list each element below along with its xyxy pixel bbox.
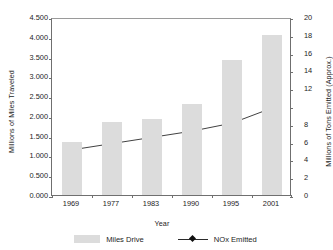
bar-miles-drive xyxy=(262,35,282,195)
y-axis-right-tick xyxy=(290,90,293,91)
chart-legend: Miles Drive NOx Emitted xyxy=(0,232,331,246)
x-axis-category-label: 1969 xyxy=(51,199,91,208)
y-axis-right-tick-label: 16 xyxy=(304,50,312,58)
y-axis-left-tick-label: 0.000 xyxy=(12,192,48,200)
y-axis-left-tick-label: 3.000 xyxy=(12,73,48,81)
y-axis-left-tick-label: 2.500 xyxy=(12,93,48,101)
x-axis-tick-labels: 196919771983199019952001 xyxy=(51,199,291,213)
y-axis-left-tick-label: 2.000 xyxy=(12,113,48,121)
y-axis-left-tick xyxy=(49,19,52,20)
x-axis-category-label: 2001 xyxy=(251,199,291,208)
x-axis-category-label: 1977 xyxy=(91,199,131,208)
y-axis-left-tick-label: 4.500 xyxy=(12,14,48,22)
y-axis-left-tick-label: 1.500 xyxy=(12,133,48,141)
x-axis-tick xyxy=(212,195,213,198)
bar-swatch-icon xyxy=(74,235,100,243)
y-axis-right-tick xyxy=(290,19,293,20)
bar-miles-drive xyxy=(182,104,202,195)
y-axis-right-tick xyxy=(290,55,293,56)
y-axis-left-tick xyxy=(49,157,52,158)
y-axis-left-tick xyxy=(49,39,52,40)
x-axis-category-label: 1990 xyxy=(171,199,211,208)
y-axis-left-tick xyxy=(49,98,52,99)
x-axis-tick xyxy=(132,195,133,198)
legend-label-miles-drive: Miles Drive xyxy=(106,235,144,244)
y-axis-right-tick-label: 2 xyxy=(304,174,308,182)
x-axis-tick xyxy=(291,195,292,198)
y-axis-right-tick xyxy=(290,161,293,162)
y-axis-right-tick xyxy=(290,144,293,145)
y-axis-right-tick-label: 18 xyxy=(304,32,312,40)
x-axis-tick xyxy=(92,195,93,198)
x-axis-tick xyxy=(172,195,173,198)
y-axis-right-tick-label: 6 xyxy=(304,139,308,147)
y-axis-left-tick-label: 0.500 xyxy=(12,172,48,180)
y-axis-left-tick-label: 1.000 xyxy=(12,152,48,160)
x-axis-tick xyxy=(252,195,253,198)
plot-area xyxy=(51,18,291,196)
y-axis-left-tick xyxy=(49,59,52,60)
y-axis-left-tick xyxy=(49,118,52,119)
y-axis-left-tick xyxy=(49,138,52,139)
nox-emitted-line-series xyxy=(52,19,292,197)
bar-miles-drive xyxy=(102,122,122,195)
x-axis-title: Year xyxy=(112,219,212,228)
legend-label-nox-emitted: NOx Emitted xyxy=(214,235,257,244)
x-axis-category-label: 1995 xyxy=(211,199,251,208)
x-axis-tick xyxy=(52,195,53,198)
y-axis-right-tick xyxy=(290,72,293,73)
y-axis-left-tick xyxy=(49,177,52,178)
bar-miles-drive xyxy=(142,119,162,195)
y-axis-right-tick-label: 14 xyxy=(304,67,312,75)
y-axis-left-tick-label: 4.000 xyxy=(12,34,48,42)
y-axis-right-tick xyxy=(290,108,293,109)
bar-miles-drive xyxy=(222,60,242,195)
x-axis-category-label: 1983 xyxy=(131,199,171,208)
y-axis-right-tick-label: 20 xyxy=(304,14,312,22)
y-axis-left-tick xyxy=(49,78,52,79)
y-axis-right-tick xyxy=(290,126,293,127)
y-axis-right-tick xyxy=(290,179,293,180)
line-diamond-icon xyxy=(178,235,208,243)
y-axis-right-tick-label: 4 xyxy=(304,156,308,164)
bar-miles-drive xyxy=(62,142,82,195)
y-axis-right-title: Millions of Tons Emitted (Approx.) xyxy=(324,47,333,177)
legend-item-miles-drive: Miles Drive xyxy=(74,235,144,244)
y-axis-right-tick-label: 8 xyxy=(304,121,308,129)
y-axis-right-tick-label: 12 xyxy=(304,85,312,93)
y-axis-right-tick xyxy=(290,37,293,38)
y-axis-left-tick-label: 3.500 xyxy=(12,54,48,62)
y-axis-right-tick-label: 0 xyxy=(304,192,308,200)
legend-item-nox-emitted: NOx Emitted xyxy=(178,235,257,244)
